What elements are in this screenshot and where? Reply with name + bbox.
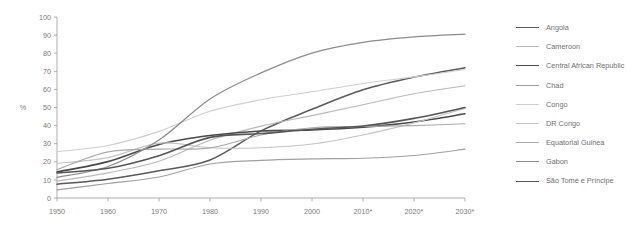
y-axis-title: % [20, 103, 27, 112]
legend-color-swatch [516, 142, 539, 143]
y-tick-label: 10 [43, 176, 51, 185]
y-tick-label: 60 [43, 85, 51, 94]
legend-item[interactable]: São Tomé e Príncipe [516, 172, 633, 191]
y-tick-label: 70 [43, 67, 51, 76]
legend-color-swatch [516, 123, 539, 124]
y-tick-label: 20 [43, 157, 51, 166]
y-tick-label: 100 [39, 13, 51, 22]
legend-color-swatch [516, 27, 539, 28]
legend-item[interactable]: Cameroon [516, 37, 633, 56]
legend-color-swatch [516, 65, 539, 66]
y-axis: 0102030405060708090100 [39, 13, 57, 203]
chart-legend: AngolaCameroonCentral African RepublicCh… [516, 18, 633, 191]
legend-color-swatch [516, 161, 539, 162]
legend-item-label: Angola [546, 24, 569, 31]
x-axis: 1950196019701980199020002010*2020*2030* [49, 198, 475, 216]
y-tick-label: 50 [43, 103, 51, 112]
x-tick-label: 1980 [202, 207, 218, 216]
series-line-dr-congo [57, 108, 465, 163]
legend-item-label: Chad [546, 82, 563, 89]
legend-item[interactable]: Equatorial Guinea [516, 133, 633, 152]
x-tick-label: 1950 [49, 207, 65, 216]
legend-item[interactable]: Gabon [516, 152, 633, 171]
x-tick-label: 2030* [456, 207, 475, 216]
legend-color-swatch [516, 104, 539, 105]
legend-item-label: Central African Republic [546, 62, 624, 69]
legend-color-swatch [516, 46, 539, 47]
x-tick-label: 1990 [253, 207, 269, 216]
y-tick-label: 30 [43, 139, 51, 148]
legend-item[interactable]: DR Congo [516, 114, 633, 133]
legend-item-label: Cameroon [546, 43, 580, 50]
series-line-congo [57, 69, 465, 151]
legend-item[interactable]: Congo [516, 95, 633, 114]
series-lines [57, 34, 465, 190]
legend-item[interactable]: Central African Republic [516, 56, 633, 75]
x-tick-label: 2020* [405, 207, 424, 216]
legend-item-label: DR Congo [546, 120, 580, 127]
legend-item-label: São Tomé e Príncipe [546, 177, 614, 184]
y-tick-label: 40 [43, 121, 51, 130]
x-tick-label: 1970 [151, 207, 167, 216]
x-tick-label: 2010* [354, 207, 373, 216]
series-line-s-o-tom-e-pr-ncipe [57, 108, 465, 174]
legend-color-swatch [516, 181, 539, 182]
y-tick-label: 0 [47, 194, 51, 203]
plot-area: 0102030405060708090100 19501960197019801… [0, 0, 500, 233]
line-chart: 0102030405060708090100 19501960197019801… [0, 0, 633, 233]
x-tick-label: 1960 [100, 207, 116, 216]
legend-item-label: Congo [546, 101, 568, 108]
legend-item-label: Gabon [546, 158, 568, 165]
y-tick-label: 80 [43, 49, 51, 58]
x-tick-label: 2000 [304, 207, 320, 216]
legend-item-label: Equatorial Guinea [546, 139, 604, 146]
legend-item[interactable]: Chad [516, 76, 633, 95]
legend-color-swatch [516, 85, 539, 86]
legend-item[interactable]: Angola [516, 18, 633, 37]
y-tick-label: 90 [43, 31, 51, 40]
